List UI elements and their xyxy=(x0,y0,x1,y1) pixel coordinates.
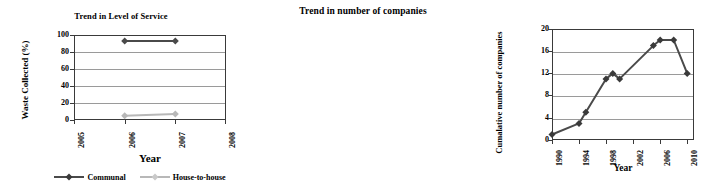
legend-left: Communal House-to-house xyxy=(40,172,240,182)
x-axis-label-right: Year xyxy=(552,163,694,173)
series-communal xyxy=(121,37,179,44)
legend-item-house-to-house[interactable]: House-to-house xyxy=(140,172,226,182)
legend-swatch-communal-icon xyxy=(54,172,84,182)
series-cumulative-companies xyxy=(549,37,691,139)
x-tick-mark xyxy=(660,140,661,144)
x-tick-mark xyxy=(606,140,607,144)
x-tick-label: 2007 xyxy=(178,132,187,148)
x-tick-mark xyxy=(633,140,634,144)
x-axis-label-left: Year xyxy=(74,152,226,164)
x-tick-mark xyxy=(74,120,75,124)
x-tick-mark xyxy=(125,120,126,124)
chart-panel-level-of-service: Trend in Level of Service Waste Collecte… xyxy=(0,0,242,196)
x-tick-mark xyxy=(579,140,580,144)
series-house-to-house xyxy=(121,111,179,120)
chart-panel-number-of-companies: Trend in number of companies Cumalative … xyxy=(242,0,484,196)
x-tick-mark xyxy=(225,120,226,124)
x-tick-mark xyxy=(175,120,176,124)
legend-swatch-house-to-house-icon xyxy=(140,172,170,182)
legend-item-communal[interactable]: Communal xyxy=(54,172,125,182)
legend-label-communal: Communal xyxy=(87,173,125,182)
x-tick-label: 2008 xyxy=(228,132,237,148)
x-tick-label: 2006 xyxy=(128,132,137,148)
x-tick-label: 2005 xyxy=(77,132,86,148)
x-tick-mark xyxy=(687,140,688,144)
x-tick-mark xyxy=(552,140,553,144)
legend-label-house-to-house: House-to-house xyxy=(173,173,226,182)
series-overlay-left xyxy=(0,0,242,196)
